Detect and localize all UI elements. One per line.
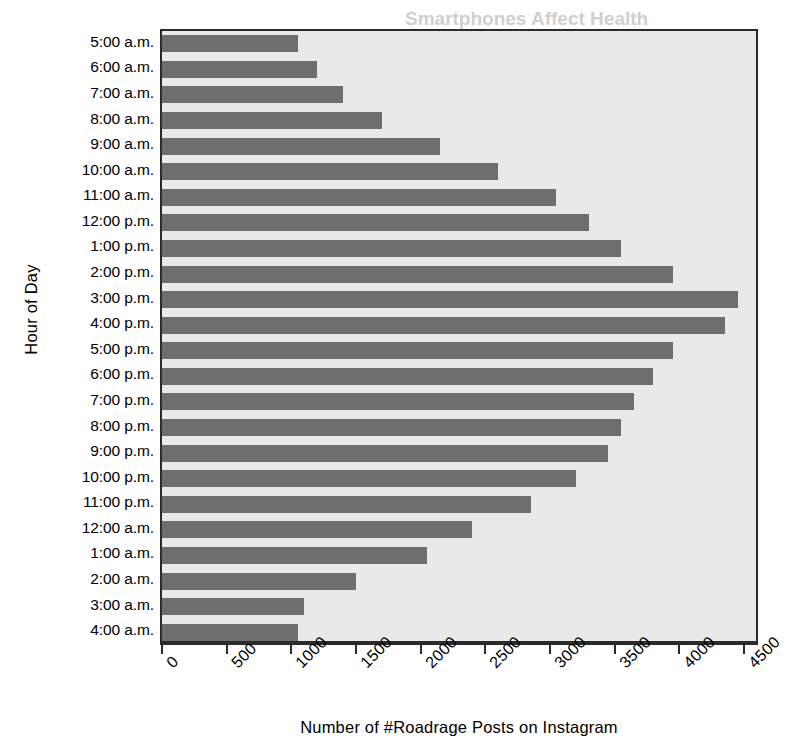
bar-chart: Smartphones Affect Health mobile use and… [0,0,788,755]
bar [162,470,576,487]
y-axis-tick-label: 6:00 a.m. [30,59,154,75]
bar [162,521,472,538]
y-axis-tick-label: 1:00 a.m. [30,545,154,561]
x-axis-tick-mark [420,645,422,654]
x-axis-tick-mark [743,645,745,654]
y-axis-tick-label: 12:00 p.m. [30,213,154,229]
y-axis-tick-label: 2:00 a.m. [30,571,154,587]
y-axis-tick-label: 8:00 p.m. [30,418,154,434]
y-axis-tick-label: 6:00 p.m. [30,366,154,382]
bar [162,189,556,206]
bar [162,240,621,257]
x-axis-tick-mark [290,645,292,654]
x-axis-tick-mark [484,645,486,654]
bleed-through-text: Smartphones Affect Health [405,8,648,30]
bar [162,35,298,52]
y-axis-tick-label: 11:00 p.m. [30,494,154,510]
y-axis-tick-label: 10:00 p.m. [30,469,154,485]
y-axis-tick-labels: 5:00 a.m.6:00 a.m.7:00 a.m.8:00 a.m.9:00… [30,29,154,643]
bar [162,547,427,564]
y-axis-tick-label: 11:00 a.m. [30,187,154,203]
y-axis-tick-label: 10:00 a.m. [30,162,154,178]
bar [162,317,725,334]
y-axis-tick-label: 7:00 a.m. [30,85,154,101]
x-axis-tick-mark [614,645,616,654]
x-axis-tick-mark [678,645,680,654]
bar [162,214,589,231]
y-axis-tick-label: 2:00 p.m. [30,264,154,280]
bar [162,445,608,462]
bar [162,291,738,308]
y-axis-tick-label: 4:00 a.m. [30,622,154,638]
bar [162,86,343,103]
y-axis-tick-label: 3:00 a.m. [30,597,154,613]
y-axis-tick-label: 5:00 p.m. [30,341,154,357]
x-axis-title: Number of #Roadrage Posts on Instagram [160,718,758,737]
y-axis-tick-label: 9:00 a.m. [30,136,154,152]
x-axis-tick-mark [161,645,163,654]
bar [162,393,634,410]
y-axis-tick-label: 4:00 p.m. [30,315,154,331]
bar [162,138,440,155]
x-axis-tick-mark [226,645,228,654]
bar [162,342,673,359]
bar [162,573,356,590]
bar [162,61,317,78]
plot-area [160,29,758,643]
bar [162,163,498,180]
y-axis-tick-label: 5:00 a.m. [30,34,154,50]
bar [162,496,531,513]
y-axis-tick-label: 12:00 a.m. [30,520,154,536]
bar [162,419,621,436]
bar [162,368,653,385]
bar [162,112,382,129]
bar [162,266,673,283]
y-axis-tick-label: 7:00 p.m. [30,392,154,408]
y-axis-tick-label: 9:00 p.m. [30,443,154,459]
x-axis-tick-label: 0 [163,652,182,671]
y-axis-tick-label: 3:00 p.m. [30,290,154,306]
x-axis-tick-mark [355,645,357,654]
y-axis-tick-label: 8:00 a.m. [30,111,154,127]
bar [162,598,304,615]
bar [162,624,298,641]
x-axis-tick-mark [549,645,551,654]
y-axis-tick-label: 1:00 p.m. [30,238,154,254]
